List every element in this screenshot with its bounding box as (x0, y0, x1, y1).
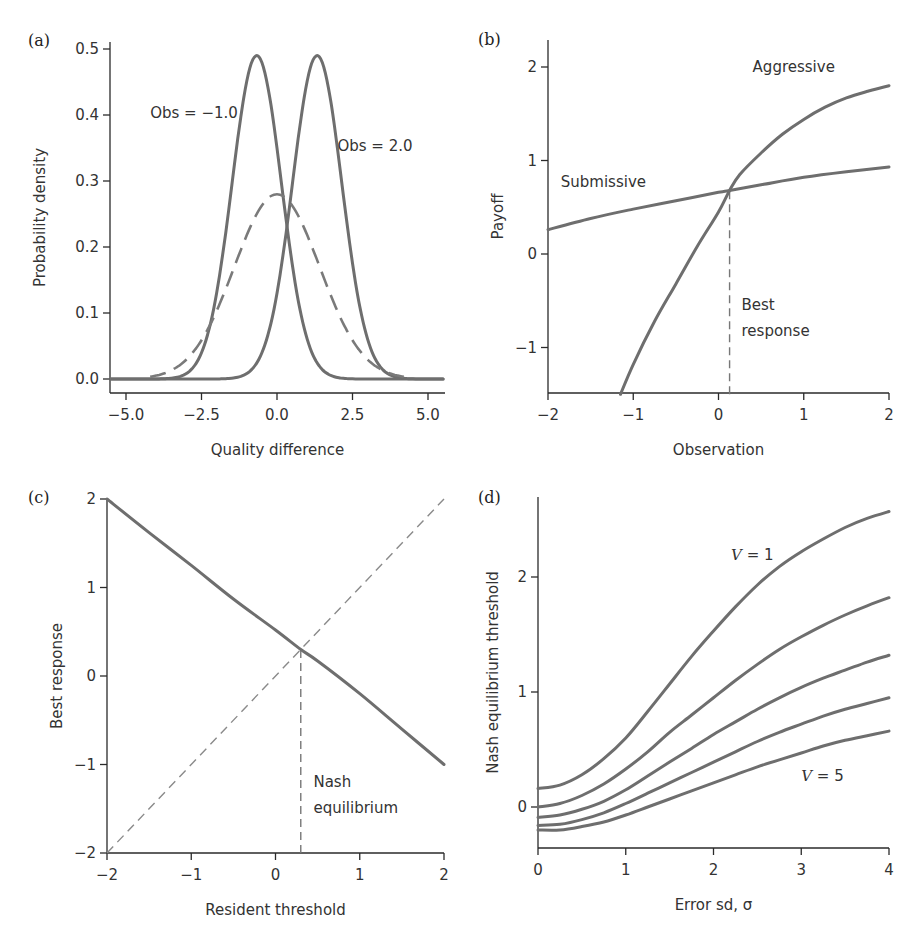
y-tick-label: 0 (527, 245, 537, 263)
y-tick-label: 0.5 (75, 40, 99, 58)
annotation: Obs = 2.0 (337, 137, 412, 155)
figure-canvas: (a)0.00.10.20.30.40.5−5.0−2.50.02.55.0Qu… (0, 0, 917, 947)
series-v-1 (538, 512, 889, 789)
y-axis-title: Best response (48, 623, 66, 729)
series-best-response (107, 499, 444, 765)
y-tick-label: 0.3 (75, 172, 99, 190)
panel-label: (c) (28, 488, 49, 507)
x-tick-label: 2.5 (341, 406, 365, 424)
x-tick-label: 0.0 (265, 406, 289, 424)
x-tick-label: −1 (622, 406, 644, 424)
annotation: equilibrium (313, 799, 398, 817)
annotation: Submissive (561, 173, 646, 191)
x-tick-label: 3 (796, 861, 806, 879)
y-tick-label: 2 (517, 568, 527, 586)
annotation: response (742, 322, 810, 340)
x-tick-label: 1 (799, 406, 809, 424)
panel-label: (d) (478, 488, 501, 507)
x-tick-label: 0 (271, 866, 281, 884)
annotation: Best (742, 296, 775, 314)
x-axis-title: Resident threshold (205, 901, 346, 919)
y-axis-title: Payoff (489, 193, 507, 240)
series-aggressive (621, 86, 890, 395)
y-axis-title: Probability density (31, 148, 49, 287)
y-tick-label: 1 (86, 579, 96, 597)
panel-a-probability-density: (a)0.00.10.20.30.40.5−5.0−2.50.02.55.0Qu… (28, 31, 445, 459)
x-tick-label: 0 (714, 406, 724, 424)
x-axis-title: Error sd, σ (675, 896, 753, 914)
x-tick-label: −5.0 (108, 406, 144, 424)
panel-c-best-response: (c)−2−1012−2−1012Resident thresholdBest … (28, 488, 449, 919)
y-tick-label: 0 (86, 667, 96, 685)
annotation: Aggressive (753, 58, 835, 76)
series-v-3 (538, 655, 889, 817)
x-tick-label: 2 (884, 406, 894, 424)
x-tick-label: 1 (621, 861, 631, 879)
y-tick-label: 2 (527, 58, 537, 76)
y-tick-label: −2 (74, 844, 96, 862)
y-tick-label: 2 (86, 490, 96, 508)
x-axis-title: Quality difference (211, 441, 345, 459)
x-tick-label: −1 (180, 866, 202, 884)
y-tick-label: 0.2 (75, 238, 99, 256)
y-tick-label: 0 (517, 798, 527, 816)
y-tick-label: 0.4 (75, 106, 99, 124)
x-tick-label: 1 (355, 866, 365, 884)
y-tick-label: −1 (74, 756, 96, 774)
y-tick-label: 0.0 (75, 370, 99, 388)
x-tick-label: −2 (537, 406, 559, 424)
y-axis-title: Nash equilibrium threshold (484, 571, 502, 774)
x-tick-label: −2.5 (183, 406, 219, 424)
x-tick-label: 2 (439, 866, 449, 884)
x-tick-label: 0 (533, 861, 543, 879)
y-tick-label: −1 (515, 339, 537, 357)
panel-b-payoff: (b)−1012−2−1012ObservationPayoffAggressi… (478, 30, 894, 459)
annotation: Obs = −1.0 (150, 104, 238, 122)
x-tick-label: 5.0 (416, 406, 440, 424)
x-tick-label: 4 (884, 861, 894, 879)
panel-label: (b) (478, 30, 501, 49)
annotation: Nash (313, 773, 351, 791)
y-tick-label: 1 (517, 683, 527, 701)
x-tick-label: 2 (709, 861, 719, 879)
x-axis-title: Observation (673, 441, 764, 459)
annotation: V = 1 (731, 546, 774, 564)
panel-d-nash-threshold: (d)01201234Error sd, σNash equilibrium t… (478, 488, 894, 914)
y-tick-label: 1 (527, 152, 537, 170)
x-tick-label: −2 (96, 866, 118, 884)
y-tick-label: 0.1 (75, 304, 99, 322)
annotation: V = 5 (801, 767, 844, 785)
panel-label: (a) (28, 31, 50, 50)
